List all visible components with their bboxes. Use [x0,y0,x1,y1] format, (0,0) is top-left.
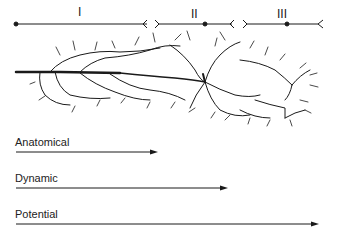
arrow-dynamic [16,186,228,191]
segment-dot-2 [203,22,207,26]
diagram: I II III Anatomical Dynamic Potential [0,0,341,237]
segment-label-2: II [191,7,198,21]
segment-dot-3 [285,22,289,26]
branching-tree [16,31,318,126]
segment-label-1: I [78,5,81,19]
label-anatomical: Anatomical [15,136,69,148]
label-potential: Potential [15,208,58,220]
arrow-potential [16,222,319,227]
segment-label-3: III [277,7,287,21]
diagram-graphics [0,0,341,237]
arrow-anatomical [16,150,158,155]
segment-line-2 [155,20,234,28]
label-dynamic: Dynamic [15,172,58,184]
segment-dot-1 [14,22,18,26]
segment-line-3 [243,20,323,28]
segment-line-1 [16,20,147,28]
